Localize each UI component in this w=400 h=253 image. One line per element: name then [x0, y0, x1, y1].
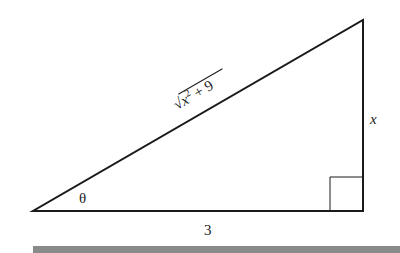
triangle — [33, 20, 363, 211]
svg-text:√x2 + 9: √x2 + 9 — [170, 75, 217, 112]
bottom-gray-bar — [33, 246, 400, 253]
adjacent-side-label: 3 — [204, 222, 212, 238]
angle-theta-label: θ — [79, 190, 86, 206]
hypotenuse-label: √x2 + 9 — [170, 67, 231, 113]
right-angle-marker — [330, 177, 363, 211]
opposite-side-label: x — [369, 111, 377, 127]
right-triangle-diagram: √x2 + 9 x 3 θ — [0, 0, 400, 253]
